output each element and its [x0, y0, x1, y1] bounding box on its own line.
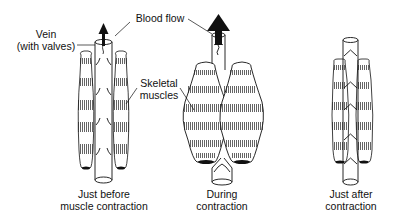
caption-before-line2: muscle contraction	[54, 200, 154, 212]
vein-label: Vein (with valves)	[16, 28, 76, 52]
muscle-pump-diagram: Vein (with valves) Blood flow Skeletal m…	[0, 0, 394, 212]
vein-label-line2: (with valves)	[16, 40, 76, 52]
skeletal-muscle-right	[219, 62, 264, 164]
caption-after: Just after contraction	[320, 188, 382, 212]
panel-after	[332, 38, 373, 186]
skeletal-muscle-right	[356, 59, 373, 164]
skeletal-muscle-left	[332, 59, 349, 164]
caption-after-line2: contraction	[320, 200, 382, 212]
caption-before: Just before muscle contraction	[54, 188, 154, 212]
blood-flow-label-text: Blood flow	[132, 12, 188, 24]
skeletal-muscles-label: Skeletal muscles	[137, 77, 181, 101]
caption-during-line1: During	[192, 188, 252, 200]
caption-after-line1: Just after	[320, 188, 382, 200]
blood-flow-arrow-large	[207, 14, 230, 45]
blood-flow-leader-left	[115, 22, 130, 36]
skeletal-label-line1: Skeletal	[137, 77, 181, 89]
caption-before-line1: Just before	[54, 188, 154, 200]
panel-during	[183, 14, 264, 185]
caption-during: During contraction	[192, 188, 252, 212]
panel-before	[78, 23, 129, 183]
blood-flow-label: Blood flow	[132, 12, 188, 24]
skeletal-label-line2: muscles	[137, 89, 181, 101]
vein-label-line1: Vein	[16, 28, 76, 40]
vein	[95, 39, 112, 183]
blood-flow-leader-right	[188, 19, 212, 34]
skeletal-muscle-left	[78, 51, 94, 170]
caption-during-line2: contraction	[192, 200, 252, 212]
skeletal-muscle-right	[113, 51, 129, 170]
